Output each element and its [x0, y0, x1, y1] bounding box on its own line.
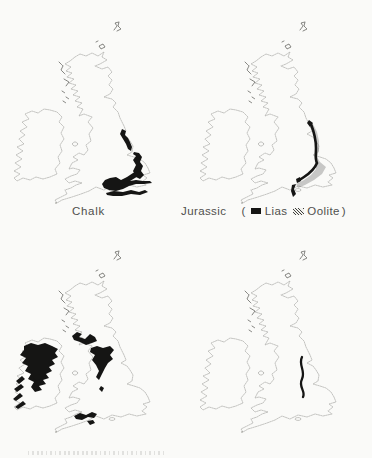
- jurassic-map: Jurassic ( Lias Oolite ): [186, 0, 372, 229]
- bottom-right-map: [186, 229, 372, 458]
- coastline-outline: [200, 251, 336, 433]
- jurassic-caption-legend: Jurassic ( Lias Oolite ): [181, 205, 346, 217]
- cropped-caption-remnant: [28, 451, 166, 455]
- bottom-left-outcrop-areas: [13, 332, 114, 425]
- chalk-southern-downs-mass: [102, 171, 152, 191]
- chalk-map-canvas: [0, 0, 186, 229]
- jurassic-caption: Jurassic: [181, 205, 226, 217]
- outcrop-ireland-main-mass: [20, 343, 58, 392]
- oolite-label: Oolite: [307, 205, 339, 217]
- outcrop-south-wales: [74, 412, 97, 425]
- outcrop-ireland-west-ridges: [13, 376, 26, 409]
- chalk-map: Chalk: [0, 0, 186, 229]
- jurassic-map-canvas: [186, 0, 372, 229]
- bottom-right-map-canvas: [186, 229, 372, 458]
- legend-close-paren: ): [342, 205, 346, 217]
- lias-label: Lias: [265, 205, 288, 217]
- lias-outcrop-band: [291, 120, 317, 197]
- chalk-outcrop-areas: [102, 129, 152, 196]
- outcrop-peak-district-patch: [99, 386, 104, 392]
- bottom-left-map: [0, 229, 186, 458]
- chalk-caption: Chalk: [72, 205, 105, 217]
- bottom-left-map-canvas: [0, 229, 186, 458]
- outcrop-curved-line: [301, 357, 304, 397]
- legend-open-paren: (: [241, 205, 245, 217]
- figure-page: Chalk Jurassic ( Lias Oolite ): [0, 0, 372, 458]
- outcrop-pennines: [90, 346, 114, 380]
- chalk-yorkshire-wolds: [120, 129, 132, 151]
- oolite-swatch-icon: [293, 208, 304, 215]
- lias-swatch-icon: [251, 208, 261, 214]
- outcrop-midland-valley-scotland: [72, 332, 97, 345]
- chalk-south-coast-streak: [106, 190, 148, 196]
